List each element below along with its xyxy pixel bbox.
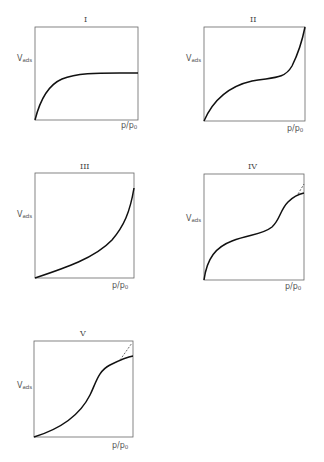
panel-type-V: V Vads p/p0 [0, 305, 162, 462]
isotherm-plot [162, 150, 324, 305]
panel-type-IV: IV Vads p/p0 [162, 150, 324, 305]
isotherm-plot [0, 150, 162, 305]
isotherm-plot [0, 0, 162, 150]
isotherm-plot [0, 305, 162, 462]
panel-type-I: I Vads p/p0 [0, 0, 162, 150]
panel-type-II: II Vads p/p0 [162, 0, 324, 150]
panel-type-III: III Vads p/p0 [0, 150, 162, 305]
isotherm-plot [162, 0, 324, 150]
